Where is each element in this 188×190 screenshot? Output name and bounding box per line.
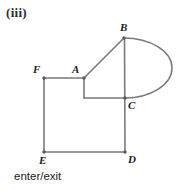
- vertex-label-f: F: [33, 64, 40, 75]
- vertex-dot-f: [42, 76, 45, 79]
- edge-b-d: [125, 38, 126, 152]
- arc-b-to-c: [124, 38, 172, 98]
- vertex-dot-d: [123, 150, 126, 153]
- vertex-label-e: E: [39, 155, 46, 166]
- enter-exit-caption: enter/exit: [14, 171, 61, 183]
- vertex-dot-a: [82, 76, 85, 79]
- vertex-label-b: B: [120, 22, 127, 33]
- edge-a-b: [84, 38, 124, 78]
- vertex-dot-b: [122, 36, 125, 39]
- geometry-diagram: [0, 0, 188, 190]
- vertex-dot-c: [123, 96, 126, 99]
- vertex-label-a: A: [72, 64, 79, 75]
- vertex-label-d: D: [128, 154, 136, 165]
- part-label: (iii): [6, 5, 27, 21]
- figure-panel: (iii) B F A C D E enter/exit: [0, 0, 188, 190]
- vertex-label-c: C: [128, 100, 135, 111]
